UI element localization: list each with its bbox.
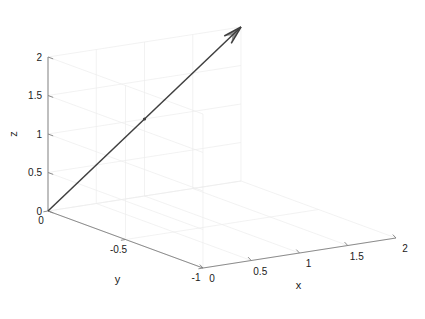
x-tick-label-0: 0 bbox=[209, 273, 215, 284]
z-tick-label-3: 1.5 bbox=[28, 90, 42, 101]
axis-labels: 00.511.520-0.5-100.511.52zyx bbox=[7, 52, 408, 292]
x-tick-label-3: 1.5 bbox=[350, 251, 364, 262]
z-tick-label-4: 2 bbox=[36, 52, 42, 63]
axis-title-y: y bbox=[115, 273, 121, 285]
plot-3d-axes[interactable]: 00.511.520-0.5-100.511.52zyx bbox=[0, 0, 425, 319]
tick-y bbox=[198, 268, 203, 269]
tick-z bbox=[48, 173, 53, 175]
x-tick-label-2: 1 bbox=[306, 258, 312, 269]
tick-z bbox=[48, 96, 53, 98]
axis-title-z: z bbox=[7, 131, 19, 137]
x-tick-label-1: 0.5 bbox=[253, 266, 267, 277]
z-tick-label-1: 0.5 bbox=[28, 167, 42, 178]
tick-z bbox=[48, 57, 53, 59]
grid-floor-y bbox=[126, 210, 319, 240]
grid-lines bbox=[48, 27, 396, 268]
vector-midpoint-marker bbox=[143, 117, 146, 120]
axis-title-x: x bbox=[296, 279, 302, 291]
tick-z bbox=[48, 134, 53, 136]
z-tick-label-2: 1 bbox=[36, 129, 42, 140]
axis-lines bbox=[48, 57, 396, 268]
y-tick-label-0: 0 bbox=[38, 215, 44, 226]
tick-y bbox=[121, 240, 126, 241]
x-tick-label-4: 2 bbox=[402, 243, 408, 254]
y-tick-label-2: -1 bbox=[192, 272, 201, 283]
tick-y bbox=[43, 211, 48, 212]
y-tick-label-1: -0.5 bbox=[110, 244, 128, 255]
figure-canvas: 00.511.520-0.5-100.511.52zyx bbox=[0, 0, 425, 319]
